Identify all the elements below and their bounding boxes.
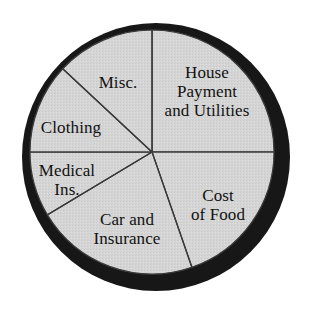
pie-chart-figure: House Payment and Utilities Cost of Food… [0, 0, 319, 310]
pie-chart-svg [0, 0, 319, 310]
pie-slice [152, 30, 274, 152]
